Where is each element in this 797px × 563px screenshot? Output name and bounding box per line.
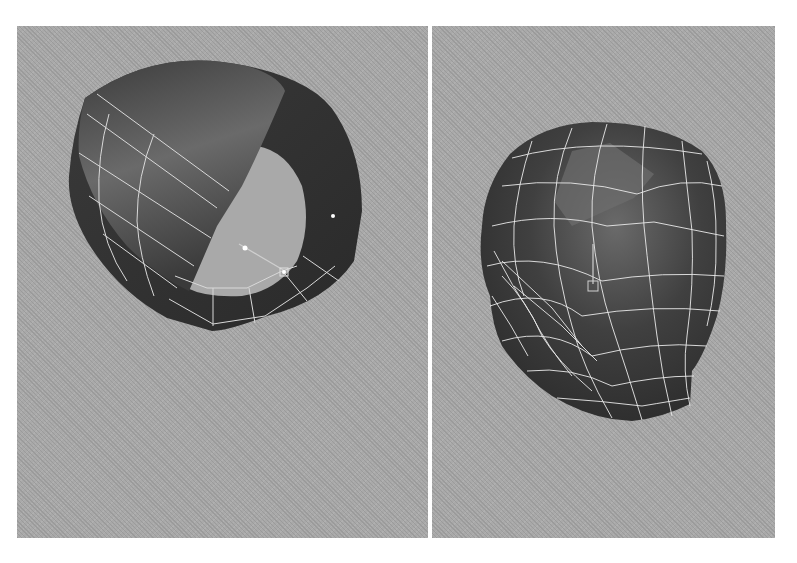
viewport-right[interactable]: [432, 26, 775, 538]
ring-mesh: [17, 26, 428, 538]
head-mesh: [432, 26, 775, 538]
figure: [0, 0, 797, 563]
viewport-left[interactable]: [17, 26, 428, 538]
